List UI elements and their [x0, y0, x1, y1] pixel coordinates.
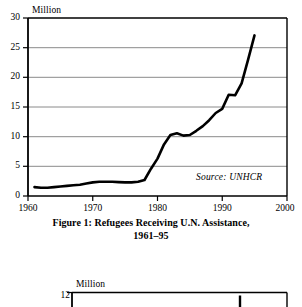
y-tick-label-10: 10 [0, 131, 20, 141]
source-annotation: Source: UNHCR [196, 172, 262, 182]
gridlines [28, 48, 287, 167]
y-axis-unit-label-2: Million [76, 279, 105, 289]
x-tick-label-1960: 1960 [11, 203, 45, 213]
y-axis-unit-label: Million [32, 5, 61, 15]
figure-caption-line-2: 1961–95 [0, 229, 302, 242]
y-tick-label-0: 0 [0, 190, 20, 200]
x-tick-label-1980: 1980 [141, 203, 175, 213]
x-tick-label-1970: 1970 [76, 203, 110, 213]
x-axis-ticks [28, 196, 287, 201]
y-tick-label-15: 15 [0, 101, 20, 111]
y-tick-label-5: 5 [0, 160, 20, 170]
y-tick-label-20: 20 [0, 71, 20, 81]
figure-1-container: Million 30 25 20 15 10 5 0 1960 1970 198… [0, 0, 302, 262]
x-tick-label-2000: 2000 [268, 203, 302, 213]
y-tick-label-25: 25 [0, 42, 20, 52]
y-tick-label-30: 30 [0, 12, 20, 22]
figure-2-container: Million 12 [0, 262, 302, 307]
figure-caption: Figure 1: Refugees Receiving U.N. Assist… [0, 216, 302, 242]
data-line-refugees [35, 35, 255, 187]
y-tick-label-12: 12 [54, 290, 70, 300]
second-chart-partial [0, 262, 302, 307]
figure-caption-line-1: Figure 1: Refugees Receiving U.N. Assist… [0, 216, 302, 229]
x-tick-label-1990: 1990 [205, 203, 239, 213]
refugees-line-chart [0, 0, 302, 215]
